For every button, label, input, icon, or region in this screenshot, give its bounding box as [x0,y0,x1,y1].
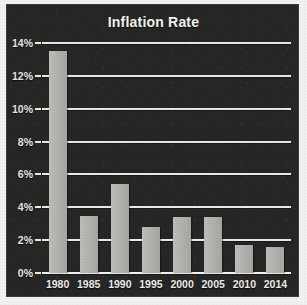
bar-1995 [142,227,160,273]
gridline [42,42,291,44]
y-axis-label: 10% [12,103,33,115]
y-axis-tick-mark [35,239,41,241]
y-axis-label: 8% [18,136,33,148]
y-axis-tick-mark [35,108,41,110]
bar-1990 [111,184,129,273]
gridline [42,206,291,208]
bar-2000 [173,217,191,273]
y-axis-tick-mark [35,75,41,77]
y-axis-label: 12% [12,70,33,82]
bar-2010 [235,245,253,273]
plot-area: 0%2%4%6%8%10%12%14% 19801985199019952000… [42,43,291,273]
y-axis-tick-mark [35,272,41,274]
bar-1980 [49,51,67,273]
bar-2005 [204,217,222,273]
gridline [42,75,291,77]
inflation-rate-chart-figure: Inflation Rate 0%2%4%6%8%10%12%14% 19801… [0,0,307,305]
y-axis-label: 0% [18,267,33,279]
bar-2014 [266,247,284,273]
gridline [42,108,291,110]
y-axis-label: 2% [18,234,33,246]
y-axis-tick-mark [35,206,41,208]
y-axis-tick-mark [35,42,41,44]
y-axis-label: 6% [18,168,33,180]
chart-title: Inflation Rate [7,14,299,30]
chart-panel: Inflation Rate 0%2%4%6%8%10%12%14% 19801… [6,4,299,297]
y-axis-tick-mark [35,173,41,175]
y-axis-tick-mark [35,141,41,143]
gridline [42,173,291,175]
y-axis-label: 4% [18,201,33,213]
x-axis-label-2014: 2014 [255,278,295,290]
gridline [42,141,291,143]
y-axis-label: 14% [12,37,33,49]
bar-1985 [80,216,98,274]
